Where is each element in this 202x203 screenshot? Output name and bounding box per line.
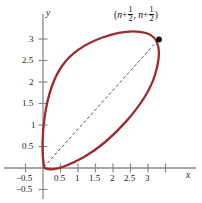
- label-plus-2: +: [143, 10, 148, 20]
- label-fraction-1: 12: [128, 6, 133, 24]
- y-tick-label-0_5: 0.5: [22, 142, 33, 151]
- label-fraction-1-denominator: 2: [128, 15, 133, 23]
- endpoint-dot-marker: [156, 37, 162, 43]
- x-tick-label-neg0_5: −0.5: [16, 174, 32, 183]
- y-tick-label-1: 1: [31, 121, 36, 130]
- x-tick-label-2: 2: [110, 174, 115, 183]
- endpoint-coordinate-label: (n+12, n+12): [114, 6, 158, 24]
- y-tick-label-2: 2: [29, 78, 34, 87]
- figure-container: −0.5 0.5 1 1.5 2 2.5 3 3 2.5 2 1.5 1 0.5…: [0, 0, 202, 203]
- y-tick-label-1_5: 1.5: [22, 99, 33, 108]
- x-axis-label: x: [186, 171, 190, 181]
- label-comma: ,: [134, 10, 136, 20]
- y-axis-label: y: [46, 9, 50, 19]
- x-tick-label-1_5: 1.5: [89, 174, 100, 183]
- x-tick-label-3: 3: [145, 174, 150, 183]
- y-tick-label-neg0_5: −0.5: [16, 185, 32, 194]
- label-close-paren: ): [155, 10, 158, 20]
- y-tick-label-2_5: 2.5: [22, 56, 33, 65]
- label-fraction-2-denominator: 2: [149, 15, 154, 23]
- x-tick-label-0_5: 0.5: [54, 174, 65, 183]
- y-tick-label-3: 3: [29, 35, 34, 44]
- label-fraction-2: 12: [149, 6, 154, 24]
- x-tick-label-2_5: 2.5: [124, 174, 135, 183]
- x-tick-label-1: 1: [75, 174, 80, 183]
- label-plus-1: +: [122, 10, 127, 20]
